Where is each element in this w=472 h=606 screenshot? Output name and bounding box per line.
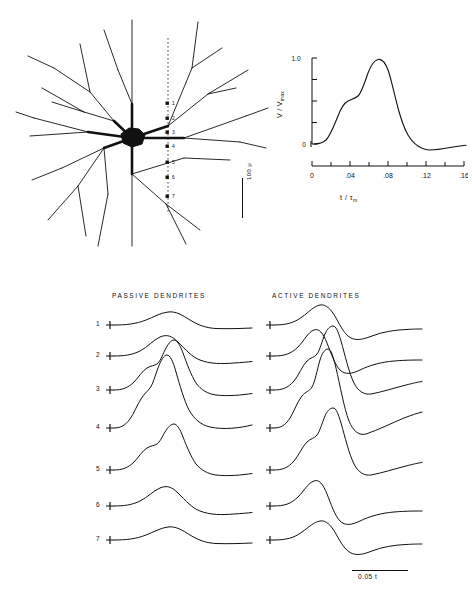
time-scale-line	[352, 570, 408, 571]
trace-row-label-4: 4	[96, 423, 100, 430]
site-marker-6	[166, 176, 169, 179]
site-label-1: 1	[172, 100, 175, 106]
site-marker-1	[166, 102, 169, 105]
site-marker-4	[166, 145, 169, 148]
neuron-morphology-panel: 1 2 3 4 5 6 7	[8, 8, 270, 248]
active-traces	[274, 305, 422, 555]
plot-y-axis-label: V / Vmax	[276, 91, 285, 118]
scale-bar-label: 100 µ	[246, 163, 252, 180]
neuron-diagram: 1 2 3 4 5 6 7	[8, 8, 270, 248]
trace-row-label-3: 3	[96, 385, 100, 392]
recording-site-markers: 1 2 3 4 5 6 7	[166, 100, 176, 199]
traces-panel: PASSIVE DENDRITES ACTIVE DENDRITES	[0, 288, 472, 606]
x-axis-label-sub: m	[353, 197, 358, 203]
site-label-5: 5	[172, 159, 175, 165]
site-label-2: 2	[172, 115, 175, 121]
y-axis-label-text: V / V	[276, 101, 283, 118]
site-marker-3	[166, 131, 169, 134]
x-tick-label-08: .08	[383, 172, 393, 179]
trace-row-label-6: 6	[96, 501, 100, 508]
time-scale-bar: 0.05 t	[352, 570, 422, 592]
y-tick-label-1: 1.0	[291, 55, 300, 62]
x-tick-label-16: .16	[459, 172, 468, 179]
site-label-7: 7	[172, 193, 175, 199]
site-label-6: 6	[172, 174, 175, 180]
x-tick-label-12: .12	[421, 172, 431, 179]
y-axis-label-sub: max	[279, 91, 285, 101]
traces-svg	[0, 288, 472, 588]
plot-x-axis-label: t / τm	[340, 194, 358, 203]
trace-row-label-5: 5	[96, 465, 100, 472]
site-marker-7	[166, 195, 169, 198]
y-axis	[312, 58, 317, 144]
passive-traces	[114, 312, 252, 544]
response-curve	[314, 59, 466, 150]
vmax-plot-panel: 1.0 0 0 .04 .08 .12 .16 V / Vmax t / τm	[278, 40, 468, 220]
site-label-3: 3	[172, 129, 175, 135]
y-tick-label-0: 0	[302, 141, 306, 148]
trace-row-label-1: 1	[96, 320, 100, 327]
micron-scale-bar: 100 µ	[236, 178, 270, 222]
site-marker-2	[166, 117, 169, 120]
x-axis	[312, 161, 464, 166]
trace-row-label-7: 7	[96, 535, 100, 542]
site-label-4: 4	[172, 143, 175, 149]
x-tick-label-04: .04	[345, 172, 355, 179]
time-scale-label: 0.05 t	[358, 573, 377, 580]
scale-bar-line	[242, 178, 243, 218]
trace-row-label-2: 2	[96, 351, 100, 358]
vmax-plot: 1.0 0 0 .04 .08 .12 .16	[278, 40, 468, 190]
x-tick-label-0: 0	[310, 172, 314, 179]
x-axis-label-text: t / τ	[340, 194, 353, 201]
soma	[121, 128, 145, 147]
site-marker-5	[166, 161, 169, 164]
